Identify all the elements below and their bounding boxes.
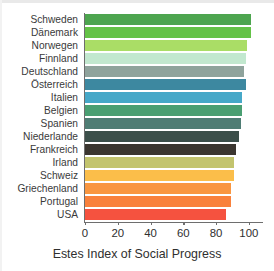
bar-row bbox=[85, 65, 262, 78]
bar-row bbox=[85, 104, 262, 117]
category-label: Niederlande bbox=[0, 130, 82, 143]
bar bbox=[85, 66, 244, 77]
x-axis-tick bbox=[118, 222, 119, 225]
x-axis-tick bbox=[249, 222, 250, 225]
bar-row bbox=[85, 182, 262, 195]
category-label: Spanien bbox=[0, 117, 82, 130]
bar-row bbox=[85, 26, 262, 39]
category-label: USA bbox=[0, 208, 82, 221]
bar-row bbox=[85, 13, 262, 26]
x-axis-tick-label: 80 bbox=[210, 227, 223, 239]
x-axis-tick bbox=[85, 222, 86, 225]
bar bbox=[85, 196, 231, 207]
category-label: Belgien bbox=[0, 104, 82, 117]
x-axis-line bbox=[84, 222, 263, 223]
bar bbox=[85, 92, 242, 103]
bar bbox=[85, 53, 246, 64]
bar-row bbox=[85, 169, 262, 182]
scan-edge-top bbox=[0, 0, 274, 3]
category-label: Schweiz bbox=[0, 169, 82, 182]
x-axis-tick bbox=[183, 222, 184, 225]
y-axis-line bbox=[84, 13, 85, 222]
category-axis-labels: SchwedenDänemarkNorwegenFinnlandDeutschl… bbox=[0, 13, 82, 222]
bar bbox=[85, 183, 231, 194]
bar bbox=[85, 27, 251, 38]
category-label: Finnland bbox=[0, 52, 82, 65]
x-axis-tick-label: 0 bbox=[82, 227, 88, 239]
bar-row bbox=[85, 156, 262, 169]
bar bbox=[85, 40, 247, 51]
bar-chart: SchwedenDänemarkNorwegenFinnlandDeutschl… bbox=[0, 0, 274, 271]
x-axis-tick bbox=[216, 222, 217, 225]
category-label: Irland bbox=[0, 156, 82, 169]
bar bbox=[85, 131, 239, 142]
plot-area bbox=[85, 13, 262, 222]
category-label: Portugal bbox=[0, 195, 82, 208]
category-label: Schweden bbox=[0, 13, 82, 26]
bar bbox=[85, 157, 234, 168]
bar bbox=[85, 118, 241, 129]
bar-row bbox=[85, 195, 262, 208]
bar bbox=[85, 209, 226, 220]
category-label: Deutschland bbox=[0, 65, 82, 78]
x-axis-tick-label: 60 bbox=[177, 227, 190, 239]
x-axis-tick-label: 100 bbox=[239, 227, 258, 239]
bar-row bbox=[85, 39, 262, 52]
bar bbox=[85, 79, 246, 90]
category-label: Österreich bbox=[0, 78, 82, 91]
bar-row bbox=[85, 208, 262, 221]
bar-row bbox=[85, 91, 262, 104]
category-label: Norwegen bbox=[0, 39, 82, 52]
bar-row bbox=[85, 143, 262, 156]
x-axis-tick bbox=[151, 222, 152, 225]
x-axis-tick-label: 40 bbox=[144, 227, 157, 239]
bar-row bbox=[85, 117, 262, 130]
bar-row bbox=[85, 130, 262, 143]
category-label: Italien bbox=[0, 91, 82, 104]
bar-row bbox=[85, 52, 262, 65]
x-axis-tick-label: 20 bbox=[111, 227, 124, 239]
bar bbox=[85, 105, 242, 116]
category-label: Griechenland bbox=[0, 182, 82, 195]
x-axis-title: Estes Index of Social Progress bbox=[0, 247, 274, 261]
bar-row bbox=[85, 78, 262, 91]
bar bbox=[85, 170, 234, 181]
bar bbox=[85, 14, 251, 25]
bar bbox=[85, 144, 236, 155]
category-label: Dänemark bbox=[0, 26, 82, 39]
category-label: Frankreich bbox=[0, 143, 82, 156]
